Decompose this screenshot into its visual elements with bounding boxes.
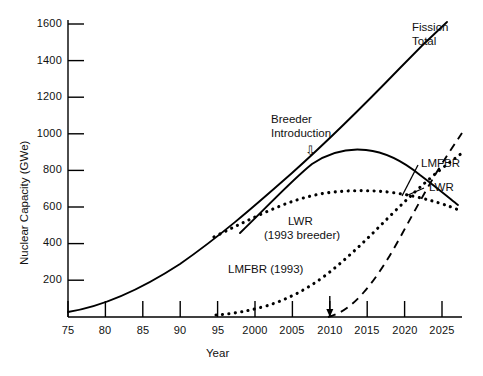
leader-line-lwr <box>408 188 424 195</box>
y-axis-ticks <box>68 24 84 280</box>
x-axis-title: Year <box>206 347 229 359</box>
y-tick-label-1400: 1400 <box>26 54 62 66</box>
y-tick-label-1000: 1000 <box>26 127 62 139</box>
x-tick-label-95: 95 <box>200 324 236 336</box>
y-axis-title: Nuclear Capacity (GWe) <box>18 141 30 265</box>
down-arrow-icon: ⇩ <box>305 144 316 157</box>
annotation-lwr-right: LWR <box>429 180 454 194</box>
y-tick-label-600: 600 <box>26 200 62 212</box>
chart-plot-area <box>0 0 483 376</box>
y-tick-label-800: 800 <box>26 163 62 175</box>
x-tick-label-2025: 2025 <box>420 324 464 336</box>
breeder-axis-arrow-icon <box>326 296 333 317</box>
annotation-fission-total-line1: Fission <box>412 20 448 34</box>
x-tick-label-75: 75 <box>50 324 86 336</box>
annotation-lmfbr-1993: LMFBR (1993) <box>228 262 303 276</box>
y-tick-label-1200: 1200 <box>26 90 62 102</box>
annotation-breeder-line2: Introduction <box>271 126 331 140</box>
annotation-lmfbr-right: LMFBR <box>421 156 460 170</box>
y-tick-label-200: 200 <box>26 273 62 285</box>
nuclear-capacity-chart: 1600 1400 1200 1000 800 600 400 200 75 8… <box>0 0 483 376</box>
annotation-fission-total-line2: Total <box>412 34 436 48</box>
y-tick-label-1600: 1600 <box>26 17 62 29</box>
annotation-lwr-breeder-line2: (1993 breeder) <box>264 228 340 242</box>
x-tick-label-85: 85 <box>125 324 161 336</box>
x-tick-label-90: 90 <box>162 324 198 336</box>
annotation-breeder-line1: Breeder <box>271 112 312 126</box>
x-tick-label-80: 80 <box>87 324 123 336</box>
y-tick-label-400: 400 <box>26 236 62 248</box>
annotation-lwr-breeder-line1: LWR <box>288 214 313 228</box>
